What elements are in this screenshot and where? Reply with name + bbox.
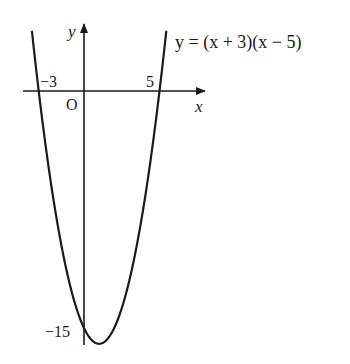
x-intercept-left-label: −3 bbox=[40, 73, 57, 90]
y-intercept-label: −15 bbox=[45, 323, 70, 340]
parabola-graph: y x O −3 5 −15 y = (x + 3)(x − 5) bbox=[0, 0, 350, 364]
y-axis-label: y bbox=[66, 22, 76, 41]
x-axis-label: x bbox=[194, 97, 203, 116]
x-intercept-right-label: 5 bbox=[146, 73, 154, 90]
origin-label: O bbox=[66, 96, 78, 113]
equation-label: y = (x + 3)(x − 5) bbox=[175, 32, 301, 53]
